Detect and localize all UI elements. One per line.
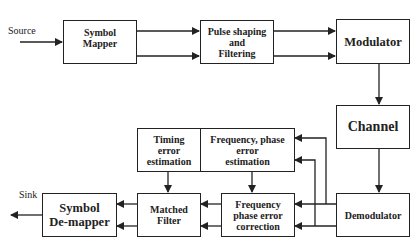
timing-error-label: Timing error estimation <box>147 134 191 167</box>
timing-error-estimation-block: Timing error estimation <box>137 128 201 172</box>
pulse-shaping-label: Pulse shaping and Filtering <box>208 26 267 59</box>
channel-label: Channel <box>348 120 399 134</box>
demodulator-label: Demodulator <box>345 210 402 221</box>
modulator-label: Modulator <box>344 35 402 49</box>
demodulator-block: Demodulator <box>336 193 410 237</box>
channel-block: Channel <box>336 105 410 149</box>
freq-phase-estimation-block: Frequency, phase error estimation <box>200 128 295 172</box>
symbol-demapper-block: Symbol De-mapper <box>42 193 117 237</box>
freq-phase-estimation-label: Frequency, phase error estimation <box>210 134 284 167</box>
freq-phase-correction-block: Frequency phase error correction <box>221 193 295 237</box>
matched-filter-block: Matched Filter <box>137 193 201 237</box>
sink-label: Sink <box>19 189 37 200</box>
freq-phase-correction-label: Frequency phase error correction <box>233 199 283 232</box>
block-diagram: Source Sink Symbol Mapper Pulse shaping … <box>0 0 418 247</box>
matched-filter-label: Matched Filter <box>150 204 188 226</box>
symbol-mapper-label: Symbol Mapper <box>83 27 117 49</box>
pulse-shaping-block: Pulse shaping and Filtering <box>200 20 274 64</box>
symbol-mapper-block: Symbol Mapper <box>63 20 137 64</box>
source-label: Source <box>8 25 36 36</box>
modulator-block: Modulator <box>336 19 410 64</box>
arrow-demod-to-estimation-2 <box>295 160 315 226</box>
symbol-demapper-label: Symbol De-mapper <box>49 201 109 229</box>
arrow-demod-to-estimation-1 <box>295 138 326 204</box>
